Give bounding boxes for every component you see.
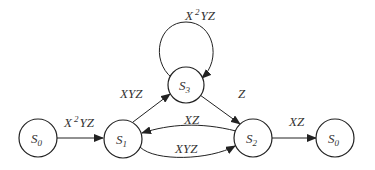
node-s0-left: S0 [19,119,57,157]
label-s1-s2: XYZ [174,141,198,156]
label-s1-s3: XYZ [119,86,143,101]
label-s2-s0: XZ [288,114,305,129]
label-s2-s1: XZ [183,112,200,127]
node-s3: S3 [168,67,204,103]
node-s0-right: S0 [316,119,354,157]
state-diagram: S0 S1 S3 S2 S0 X2YZ XYZ X2YZ Z XZ XYZ XZ [0,0,375,170]
node-s1: S1 [104,120,142,158]
label-s3-self: X2YZ [184,7,216,23]
label-s0-s1: X2YZ [63,114,95,130]
diagram-svg: S0 S1 S3 S2 S0 X2YZ XYZ X2YZ Z XZ XYZ XZ [0,0,375,170]
edge-s3-s2 [200,95,240,124]
label-s3-s2: Z [238,86,246,101]
node-s2: S2 [234,119,272,157]
